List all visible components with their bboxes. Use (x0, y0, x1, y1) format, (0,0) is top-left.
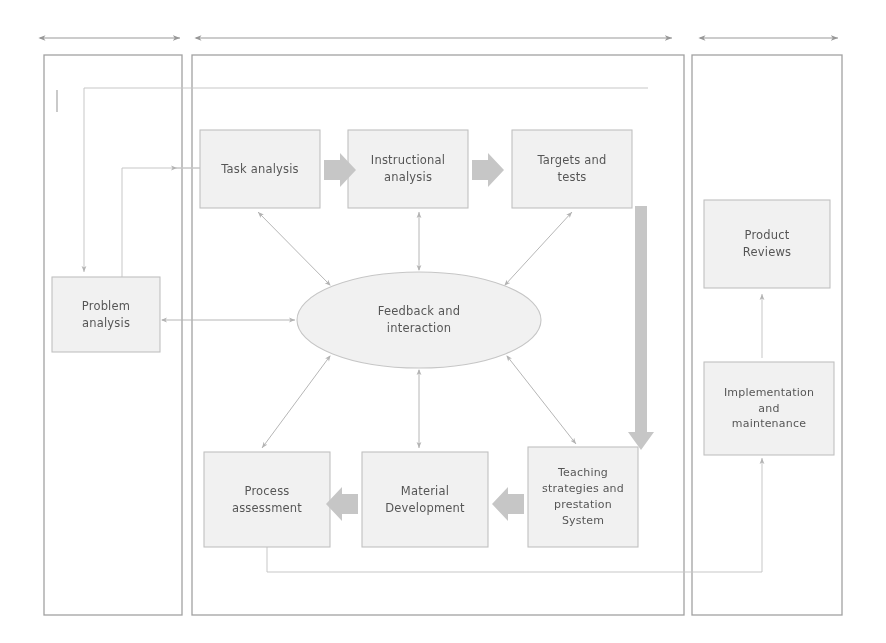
block-arrow-instructional-to-targets (472, 153, 504, 187)
box-instructional-analysis[interactable] (348, 130, 468, 208)
ellipse-feedback-and-interaction[interactable] (297, 272, 541, 368)
box-problem-analysis[interactable] (52, 277, 160, 352)
connector-feedback-process-assessment (262, 356, 330, 448)
connector-feedback-targets-tests (505, 212, 572, 285)
box-product-reviews[interactable] (704, 200, 830, 288)
feedback-line-mid-loop (122, 168, 200, 277)
box-implementation[interactable] (704, 362, 834, 455)
connector-feedback-teaching-strategies (507, 356, 576, 444)
diagram-vector-layer (0, 0, 886, 643)
diagram-canvas: Task analysis Instructionalanalysis Targ… (0, 0, 886, 643)
box-process-assessment[interactable] (204, 452, 330, 547)
block-arrow-targets-to-teaching (628, 206, 654, 450)
block-arrow-material-to-process (326, 487, 358, 521)
evaluation-panel (692, 55, 842, 615)
box-task-analysis[interactable] (200, 130, 320, 208)
connector-feedback-task-analysis (258, 212, 330, 285)
block-arrow-teaching-to-material (492, 487, 524, 521)
box-targets-and-tests[interactable] (512, 130, 632, 208)
box-material-development[interactable] (362, 452, 488, 547)
box-teaching-strategies[interactable] (528, 447, 638, 547)
